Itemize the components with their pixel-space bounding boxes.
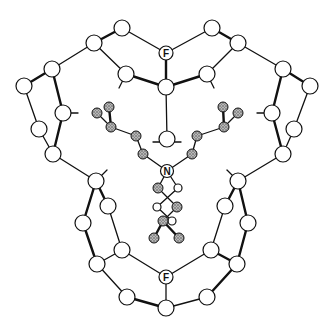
carbon-atom xyxy=(114,242,130,258)
carbon-atom xyxy=(119,289,135,305)
carbon-atom xyxy=(203,242,219,258)
carbon-atom xyxy=(31,121,47,137)
carbon-atom xyxy=(89,256,105,272)
nitrogen-label: N xyxy=(163,166,170,177)
carbon-atom xyxy=(275,146,291,162)
fluorine-atom-bottom: F xyxy=(159,270,173,284)
carbon-atom xyxy=(204,20,220,36)
shaded-atom xyxy=(138,149,148,159)
shaded-atom xyxy=(172,202,182,212)
open-atom xyxy=(153,203,161,211)
carbon-atom xyxy=(230,35,246,51)
carbon-atom xyxy=(88,173,104,189)
shaded-atom xyxy=(187,149,197,159)
carbon-atom xyxy=(75,215,91,231)
shaded-atom xyxy=(219,122,229,132)
molecular-structure-diagram: F F N xyxy=(0,0,331,328)
open-atom xyxy=(168,217,176,225)
shaded-atom xyxy=(218,102,228,112)
nitrogen-atom: N xyxy=(161,165,174,178)
carbon-atom xyxy=(114,20,130,36)
shaded-atom xyxy=(92,108,102,118)
carbon-atom xyxy=(275,61,291,77)
shaded-atom xyxy=(149,233,159,243)
carbon-atom xyxy=(199,289,215,305)
molecule-canvas: F F N xyxy=(0,0,331,328)
lower-cage-bonds xyxy=(83,170,248,308)
shaded-atom xyxy=(153,183,163,193)
carbon-atom xyxy=(199,66,215,82)
shaded-atom xyxy=(158,216,168,226)
fluorine-atom-top: F xyxy=(159,46,173,60)
carbon-atom xyxy=(230,173,246,189)
shaded-atom xyxy=(131,131,141,141)
carbon-atom xyxy=(44,61,60,77)
shaded-atom xyxy=(233,108,243,118)
carbon-atom xyxy=(264,105,280,121)
carbon-atom xyxy=(286,121,302,137)
carbon-atom xyxy=(118,66,134,82)
open-atom xyxy=(174,184,182,192)
shaded-atom xyxy=(174,233,184,243)
carbon-atom xyxy=(158,79,174,95)
fluorine-label-bottom: F xyxy=(163,272,169,283)
carbon-atom xyxy=(159,131,175,147)
fluorine-label-top: F xyxy=(163,48,169,59)
carbon-atom xyxy=(229,256,245,272)
shaded-atom xyxy=(106,122,116,132)
carbon-atom xyxy=(45,146,61,162)
shaded-atom xyxy=(192,131,202,141)
carbon-atom xyxy=(86,35,102,51)
carbon-atom xyxy=(240,215,256,231)
carbon-atom xyxy=(158,300,174,316)
carbon-atom xyxy=(55,105,71,121)
carbon-atom xyxy=(100,198,116,214)
shaded-atom xyxy=(104,102,114,112)
carbon-atom xyxy=(217,198,233,214)
carbon-atom xyxy=(302,78,318,94)
carbon-atom xyxy=(16,78,32,94)
